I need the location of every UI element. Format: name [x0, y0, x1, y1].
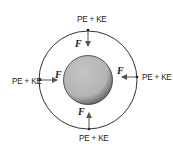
force-label-left: F — [55, 69, 62, 80]
energy-label-right: PE + KE — [142, 72, 172, 82]
planet — [64, 56, 113, 105]
energy-label-bottom: PE + KE — [79, 133, 109, 143]
energy-label-top: PE + KE — [77, 14, 107, 24]
energy-label-left: PE + KE — [12, 76, 42, 86]
force-label-right: F — [117, 65, 124, 76]
force-label-bottom: F — [78, 106, 85, 117]
force-label-top: F — [75, 38, 82, 49]
